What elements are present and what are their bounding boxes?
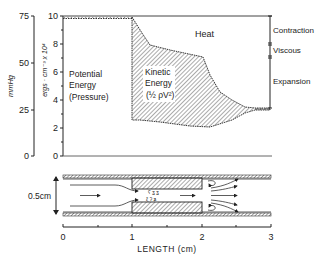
energy-tick-0: 0 [53,151,58,161]
mmhg-tick-50: 50 [19,58,29,68]
top-hatch-strip [63,17,133,18]
kinetic-energy-label-1: Kinetic [145,67,171,77]
kinetic-energy-label-3: (½ ρV²) [146,90,175,100]
turbulence-marks-2: ξ ʔ ʑ [146,196,157,203]
potential-energy-label-3: (Pressure) [69,92,109,102]
length-axis: 0 1 2 3 LENGTH (cm) [60,224,273,254]
loss-bracket: Contraction Viscous Expansion [268,16,314,108]
potential-energy-label-2: Energy [69,80,97,90]
energy-loss-diagram: 75 50 25 0 mmHg 10 8 6 4 2 0 ergs · cm⁻³… [0,0,331,258]
length-tick-3: 3 [268,232,273,242]
stenosis-lower [132,202,202,213]
length-axis-label: LENGTH (cm) [137,244,196,254]
contraction-label: Contraction [273,26,314,35]
kinetic-energy-label-2: Energy [145,78,173,88]
length-tick-2: 2 [199,232,204,242]
energy-tick-2: 2 [53,123,58,133]
heat-label: Heat [195,29,215,39]
energy-axis: 10 8 6 4 2 0 ergs · cm⁻³ x 10⁴ [41,11,63,161]
mmhg-tick-0: 0 [24,151,29,161]
length-tick-0: 0 [60,232,65,242]
potential-energy-label-1: Potential [69,69,102,79]
expansion-label: Expansion [273,77,310,86]
mmhg-axis: 75 50 25 0 mmHg [6,11,34,161]
energy-tick-4: 4 [53,95,58,105]
energy-tick-8: 8 [53,39,58,49]
turbulence-marks: ʕ ʓ ʓ [148,189,159,195]
tube-diagram: ʕ ʓ ʓ ξ ʔ ʑ 0.5cm [28,175,271,216]
energy-axis-label: ergs · cm⁻³ x 10⁴ [41,43,49,97]
length-tick-1: 1 [129,232,134,242]
energy-tick-6: 6 [53,67,58,77]
viscous-label: Viscous [273,46,301,55]
tube-diameter-label: 0.5cm [28,191,51,201]
mmhg-tick-25: 25 [19,105,29,115]
stenosis-upper [132,178,202,189]
mmhg-axis-label: mmHg [6,74,15,97]
energy-tick-10: 10 [48,11,58,21]
mmhg-tick-75: 75 [19,11,29,21]
